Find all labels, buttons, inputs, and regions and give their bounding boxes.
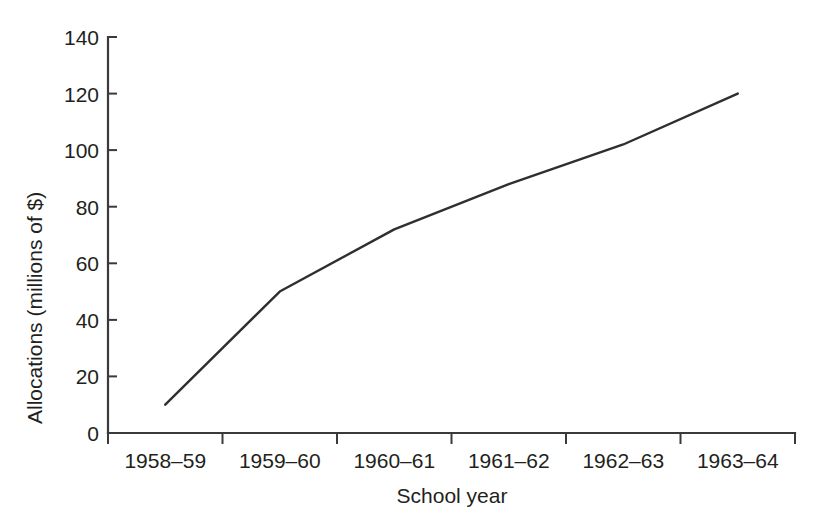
x-tick-label-1963-64: 1963–64 bbox=[697, 449, 779, 472]
y-tick-label-20: 20 bbox=[76, 365, 99, 388]
y-tick-label-0: 0 bbox=[87, 422, 99, 445]
line-chart-svg: Allocations (millions of $) 140 120 100 … bbox=[0, 0, 813, 527]
y-tick-label-80: 80 bbox=[76, 196, 99, 219]
y-axis-title: Allocations (millions of $) bbox=[23, 192, 46, 424]
x-tick-label-1959-60: 1959–60 bbox=[239, 449, 321, 472]
x-tick-label-1961-62: 1961–62 bbox=[468, 449, 550, 472]
x-axis-title: School year bbox=[397, 484, 508, 507]
y-tick-label-120: 120 bbox=[64, 83, 99, 106]
data-series-line bbox=[165, 94, 738, 405]
y-tick-label-60: 60 bbox=[76, 252, 99, 275]
y-tick-label-140: 140 bbox=[64, 26, 99, 49]
y-tick-label-100: 100 bbox=[64, 139, 99, 162]
x-tick-label-1962-63: 1962–63 bbox=[582, 449, 664, 472]
y-tick-label-40: 40 bbox=[76, 309, 99, 332]
chart-figure: Allocations (millions of $) 140 120 100 … bbox=[0, 0, 813, 527]
x-tick-label-1960-61: 1960–61 bbox=[353, 449, 435, 472]
x-tick-label-1958-59: 1958–59 bbox=[124, 449, 206, 472]
